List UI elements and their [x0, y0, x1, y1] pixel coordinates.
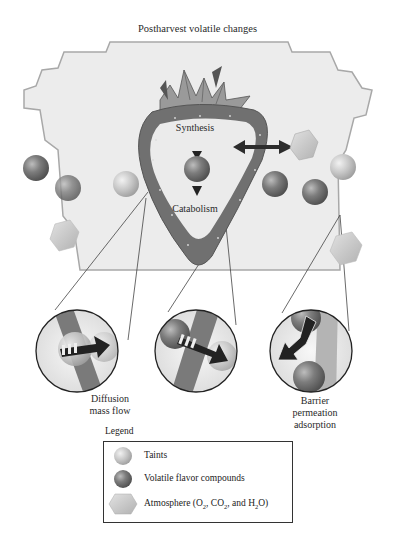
volatile-compound-sphere	[23, 155, 49, 181]
legend-item-atmosphere: Atmosphere (O2, CO2, and H2O)	[144, 498, 268, 510]
barrier-label: Barrier permeation adsorption	[280, 395, 350, 431]
legend-label-part: O)	[258, 498, 268, 508]
volatile-compound-sphere	[184, 156, 210, 182]
volatile-compound-sphere	[262, 171, 288, 197]
barrier-label-line1: Barrier	[280, 395, 350, 407]
legend-item-taints: Taints	[144, 450, 167, 460]
callout-diffusion	[36, 300, 119, 400]
catabolism-label: Catabolism	[155, 203, 235, 215]
legend-label-part: , and H	[227, 498, 255, 508]
diffusion-label: Diffusion mass flow	[80, 393, 140, 417]
callout-mass-flow	[155, 300, 237, 400]
barrier-label-line3: adsorption	[280, 419, 350, 431]
taint-sphere	[330, 154, 356, 180]
diagram-title: Postharvest volatile changes	[0, 23, 395, 35]
volatile-compound-sphere	[55, 175, 81, 201]
legend-box: Taints Volatile flavor compounds Atmosph…	[103, 441, 293, 523]
volatile-compound-sphere	[302, 179, 328, 205]
diffusion-label-line2: mass flow	[80, 405, 140, 417]
legend-title: Legend	[105, 426, 134, 436]
taint-sphere	[113, 171, 139, 197]
barrier-label-line2: permeation	[280, 407, 350, 419]
legend-label-part: Atmosphere (O	[144, 498, 203, 508]
legend-label: Taints	[144, 450, 167, 460]
diffusion-label-line1: Diffusion	[80, 393, 140, 405]
callout-barrier	[270, 300, 352, 400]
legend-item-volatile: Volatile flavor compounds	[144, 473, 245, 483]
legend-label: Volatile flavor compounds	[144, 473, 245, 483]
legend-label-part: , CO	[206, 498, 224, 508]
synthesis-label: Synthesis	[160, 122, 230, 134]
